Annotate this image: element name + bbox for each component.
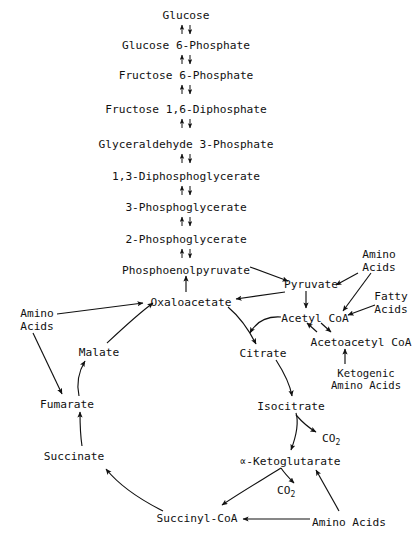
label-co2-isocitrate: CO2 xyxy=(322,432,340,447)
co2-subscript: 2 xyxy=(335,438,340,447)
label-amino-acids-top-right-line2: Acids xyxy=(362,261,396,274)
node-glyceraldehyde-3-phosphate: Glyceraldehyde 3-Phosphate xyxy=(98,138,273,151)
node-acetoacetyl-coa: Acetoacetyl CoA xyxy=(310,336,411,349)
connector-pyruvate-to-oxaloacetate xyxy=(236,292,285,299)
node-malate: Malate xyxy=(79,346,120,359)
krebs-cycle-labels: Oxaloacetate Citrate Isocitrate ∝-Ketogl… xyxy=(40,296,341,525)
node-succinyl-coa: Succinyl-CoA xyxy=(157,512,238,525)
label-fatty-acids-line1: Fatty xyxy=(374,290,408,303)
connector-isocitrate-to-ketoglutarate xyxy=(291,413,297,450)
label-co2-ketoglutarate: CO2 xyxy=(277,484,295,499)
connector-fumarate-to-malate xyxy=(78,361,85,396)
label-amino-acids-left-line2: Acids xyxy=(20,320,54,333)
node-fructose-1-6-diphosphate: Fructose 1,6-Diphosphate xyxy=(105,103,267,116)
node-oxaloacetate: Oxaloacetate xyxy=(151,296,232,309)
connector-amino-acids-bottom-to-ketoglutarate xyxy=(316,470,339,511)
label-amino-acids-top-right-line1: Amino xyxy=(362,248,396,261)
node-isocitrate: Isocitrate xyxy=(257,400,325,413)
connector-oxaloacetate-to-citrate xyxy=(228,307,256,344)
connector-ketoglutarate-to-succinyl-coa xyxy=(222,468,281,505)
pathway-canvas: Glucose Glucose 6-Phosphate Fructose 6-P… xyxy=(0,0,419,540)
co2-subscript: 2 xyxy=(290,490,295,499)
co2-text: CO xyxy=(277,484,291,497)
node-3-phosphoglycerate: 3-Phosphoglycerate xyxy=(125,201,247,214)
node-2-phosphoglycerate: 2-Phosphoglycerate xyxy=(125,233,247,246)
co2-text: CO xyxy=(322,432,336,445)
label-fatty-acids-line2: Acids xyxy=(374,303,408,316)
node-acetyl-coa: Acetyl CoA xyxy=(281,312,349,325)
connector-malate-to-oxaloacetate xyxy=(107,303,153,343)
node-succinate: Succinate xyxy=(44,450,105,463)
node-fructose-6-phosphate: Fructose 6-Phosphate xyxy=(119,69,254,82)
connector-isocitrate-to-co2 xyxy=(296,415,316,432)
node-citrate: Citrate xyxy=(239,347,286,360)
reversible-arrow-pair xyxy=(182,55,190,64)
connector-ketoglutarate-to-co2 xyxy=(281,468,294,483)
glycolysis-labels: Glucose Glucose 6-Phosphate Fructose 6-P… xyxy=(98,9,273,277)
node-alpha-ketoglutarate: ∝-Ketoglutarate xyxy=(239,455,340,468)
reversible-arrow-pair xyxy=(182,217,190,226)
connector-acetyl-coa-to-citrate xyxy=(250,317,281,333)
reversible-arrow-pair xyxy=(182,186,190,195)
connector-pep-to-pyruvate xyxy=(250,267,288,281)
connector-amino-acids-right-to-pyruvate xyxy=(336,273,358,285)
reversible-arrow-pair xyxy=(182,249,190,258)
node-phosphoenolpyruvate: Phosphoenolpyruvate xyxy=(122,264,250,277)
label-amino-acids-left-line1: Amino xyxy=(20,307,54,320)
connector-amino-acids-left-to-oxaloacetate xyxy=(57,303,143,314)
connector-succinate-to-fumarate xyxy=(80,412,82,446)
reversible-arrow-pair xyxy=(182,85,190,94)
label-amino-acids-bottom: Amino Acids xyxy=(312,516,386,529)
node-fumarate: Fumarate xyxy=(40,398,94,411)
connector-citrate-to-isocitrate xyxy=(276,360,292,396)
reversible-arrow-pair xyxy=(182,25,190,34)
connector-fatty-acids-to-acetyl-coa xyxy=(348,305,375,315)
label-ketogenic-amino-acids-line2: Amino Acids xyxy=(331,379,401,391)
metabolic-pathway-diagram: Glucose Glucose 6-Phosphate Fructose 6-P… xyxy=(0,0,419,540)
label-ketogenic-amino-acids-line1: Ketogenic xyxy=(337,367,394,379)
reversible-arrow-pair xyxy=(182,154,190,163)
node-1-3-diphosphoglycerate: 1,3-Diphosphoglycerate xyxy=(112,170,260,183)
reversible-arrow-pair xyxy=(182,119,190,128)
connector-succinyl-coa-to-succinate xyxy=(106,469,163,511)
node-glucose-6-phosphate: Glucose 6-Phosphate xyxy=(122,39,250,52)
node-glucose: Glucose xyxy=(162,9,209,22)
node-pyruvate: Pyruvate xyxy=(284,278,338,291)
connector-amino-acids-left-to-fumarate xyxy=(33,333,62,394)
